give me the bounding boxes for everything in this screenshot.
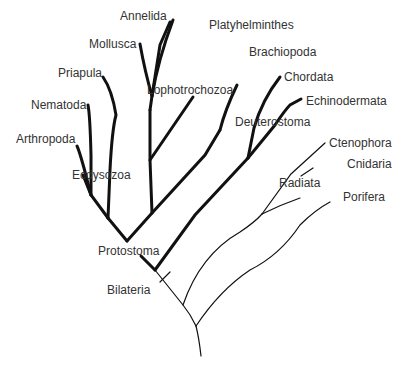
label-chordata: Chordata: [284, 70, 333, 84]
basal-branches: [155, 143, 330, 356]
label-annelida: Annelida: [120, 9, 167, 23]
label-protostoma: Protostoma: [98, 244, 159, 258]
label-echinodermata: Echinodermata: [306, 94, 387, 108]
label-bilateria: Bilateria: [107, 283, 150, 297]
label-radiata: Radiata: [279, 176, 320, 190]
label-priapula: Priapula: [58, 66, 102, 80]
label-deuterostoma: Deuterostoma: [235, 115, 310, 129]
label-mollusca: Mollusca: [89, 37, 136, 51]
label-ecdysozoa: Ecdysozoa: [72, 168, 131, 182]
tree-branches: [0, 0, 404, 371]
label-platyhelminthes: Platyhelminthes: [209, 18, 294, 32]
phylogenetic-tree: Annelida Platyhelminthes Mollusca Brachi…: [0, 0, 404, 371]
label-lophotrochozoa: Lophotrochozoa: [147, 83, 233, 97]
label-nematoda: Nematoda: [31, 98, 86, 112]
label-brachiopoda: Brachiopoda: [249, 45, 316, 59]
label-ctenophora: Ctenophora: [329, 136, 392, 150]
label-porifera: Porifera: [343, 190, 385, 204]
label-cnidaria: Cnidaria: [347, 157, 392, 171]
label-arthropoda: Arthropoda: [16, 132, 75, 146]
